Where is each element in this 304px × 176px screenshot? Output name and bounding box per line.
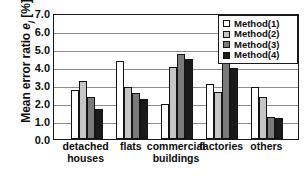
x-tick-label: detachedhouses [63, 141, 109, 164]
bar [124, 87, 132, 139]
x-tick-label-line: flats [120, 141, 142, 153]
x-tick-label: commercialbuildings [147, 141, 205, 164]
y-tick-label: 2.0 [20, 98, 50, 110]
bar-group [71, 15, 103, 139]
x-tick-label-line: others [250, 141, 282, 153]
bar [95, 109, 103, 139]
bar [169, 67, 177, 139]
bar [206, 84, 214, 139]
legend-label: Method(3) [234, 40, 279, 50]
legend-item: Method(1) [223, 19, 294, 29]
bar [251, 87, 259, 139]
y-tick-label: 5.0 [20, 44, 50, 56]
legend: Method(1)Method(2)Method(3)Method(4) [218, 15, 298, 64]
bar [132, 93, 140, 139]
bar [267, 117, 275, 140]
y-tick-label: 4.0 [20, 62, 50, 74]
y-tick-label: 7.0 [20, 8, 50, 20]
bar [259, 97, 267, 139]
x-tick-label-line: commercial [147, 141, 205, 153]
bar [222, 62, 230, 139]
y-tick-label: 1.0 [20, 116, 50, 128]
legend-label: Method(2) [234, 29, 279, 39]
legend-swatch [223, 52, 230, 59]
legend-label: Method(1) [234, 19, 279, 29]
bar-group [116, 15, 148, 139]
y-tick-label: 6.0 [20, 26, 50, 38]
legend-label: Method(4) [234, 50, 279, 60]
chart-figure: Mean error ratio ej [%] 0.01.02.03.04.05… [0, 0, 304, 176]
x-tick-label-line: houses [63, 153, 109, 165]
bar [71, 90, 79, 139]
y-tick-label: 0.0 [20, 134, 50, 146]
bar-group [161, 15, 193, 139]
bar [185, 59, 193, 139]
bar [177, 54, 185, 140]
legend-swatch [223, 20, 230, 27]
x-tick-label-line: buildings [147, 153, 205, 165]
legend-swatch [223, 31, 230, 38]
bar [230, 68, 238, 139]
y-axis-tick-labels: 0.01.02.03.04.05.06.07.0 [18, 0, 50, 176]
legend-swatch [223, 41, 230, 48]
bar [161, 104, 169, 139]
x-tick-label: flats [120, 141, 142, 153]
legend-item: Method(3) [223, 40, 294, 50]
x-tick-label: factories [199, 141, 243, 153]
bar [140, 99, 148, 140]
bar [87, 97, 95, 139]
legend-item: Method(4) [223, 50, 294, 60]
bar [275, 118, 283, 139]
x-tick-label-line: detached [63, 141, 109, 153]
x-tick-label-line: factories [199, 141, 243, 153]
bar [214, 92, 222, 139]
bar [116, 61, 124, 139]
bar [79, 81, 87, 139]
x-tick-label: others [250, 141, 282, 153]
legend-item: Method(2) [223, 29, 294, 39]
y-tick-label: 3.0 [20, 80, 50, 92]
x-axis-tick-labels: detachedhousesflatscommercialbuildingsfa… [53, 141, 299, 175]
